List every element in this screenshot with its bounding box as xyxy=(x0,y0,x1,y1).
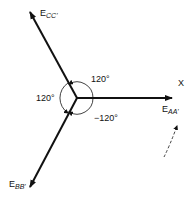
rotation-arrow-icon xyxy=(164,126,177,157)
phasor-ecc xyxy=(30,12,77,98)
label-eaa-sub: AA' xyxy=(168,108,179,115)
phasor-ebb xyxy=(30,98,77,187)
arc-left xyxy=(60,83,68,113)
axis-x-label: X xyxy=(178,78,184,88)
label-ecc: ECC' xyxy=(40,8,57,19)
angle-left: 120° xyxy=(36,93,55,103)
label-ebb: EBB' xyxy=(9,179,26,190)
label-ebb-sub: BB' xyxy=(15,183,26,190)
label-ecc-sub: CC' xyxy=(46,12,57,19)
angle-lower: −120° xyxy=(94,113,118,123)
phasor-diagram xyxy=(0,0,191,200)
angle-upper: 120° xyxy=(91,74,110,84)
label-eaa: EAA' xyxy=(162,104,179,115)
